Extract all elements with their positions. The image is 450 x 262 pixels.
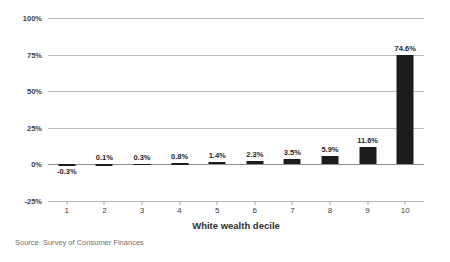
bar-slot: 0.3% (123, 18, 161, 201)
x-axis-tick-label: 3 (140, 206, 144, 215)
x-axis-tick-mark (179, 201, 180, 205)
bar-slot: 0.1% (86, 18, 124, 201)
y-axis-tick-label: 75% (0, 50, 42, 59)
bar[interactable] (209, 162, 226, 164)
x-axis-tick-mark (367, 201, 368, 205)
x-axis-tick-mark (330, 201, 331, 205)
bar-slot: 2.3% (236, 18, 274, 201)
x-axis-title: White wealth decile (48, 220, 424, 231)
bar-value-label: 11.6% (357, 136, 378, 145)
bar-value-label: 0.8% (171, 152, 188, 161)
bar-value-label: 0.1% (96, 153, 113, 162)
source-note: Source: Survey of Consumer Finances (15, 238, 144, 247)
x-axis-tick-mark (254, 201, 255, 205)
y-axis-labels: 100%75%50%25%0%-25% (0, 18, 42, 201)
x-axis-tick-mark (405, 201, 406, 205)
bar[interactable] (321, 156, 338, 165)
bar-value-label: -0.3% (57, 167, 77, 176)
bar[interactable] (397, 55, 414, 164)
bar[interactable] (96, 164, 113, 166)
y-axis-tick-label: 50% (0, 87, 42, 96)
bars-layer: -0.3%0.1%0.3%0.8%1.4%2.3%3.5%5.9%11.6%74… (48, 18, 424, 201)
bar-slot: 3.5% (274, 18, 312, 201)
bar-value-label: 3.5% (284, 148, 301, 157)
x-axis-tick-label: 2 (102, 206, 106, 215)
y-axis-tick-label: 25% (0, 123, 42, 132)
bar-slot: 74.6% (386, 18, 424, 201)
y-axis-tick-label: 100% (0, 14, 42, 23)
x-axis-tick-mark (217, 201, 218, 205)
bar-slot: 11.6% (349, 18, 387, 201)
bar[interactable] (171, 163, 188, 165)
x-axis-tick-mark (292, 201, 293, 205)
x-axis-tick-label: 4 (177, 206, 181, 215)
bar-slot: -0.3% (48, 18, 86, 201)
x-axis-tick-mark (142, 201, 143, 205)
bar[interactable] (359, 147, 376, 164)
bar-value-label: 0.3% (133, 153, 150, 162)
x-axis-tick-label: 5 (215, 206, 219, 215)
x-axis-tick-mark (66, 201, 67, 205)
x-axis-tick-label: 7 (290, 206, 294, 215)
bar-value-label: 2.3% (246, 150, 263, 159)
bar-value-label: 1.4% (209, 151, 226, 160)
bar-slot: 5.9% (311, 18, 349, 201)
y-axis-tick-label: 0% (0, 160, 42, 169)
bar[interactable] (133, 164, 150, 166)
bar-value-label: 5.9% (321, 145, 338, 154)
bar-slot: 1.4% (198, 18, 236, 201)
bar[interactable] (58, 164, 75, 166)
y-axis-tick-label: -25% (0, 197, 42, 206)
x-axis-tick-label: 8 (328, 206, 332, 215)
bar[interactable] (246, 161, 263, 164)
bar-slot: 0.8% (161, 18, 199, 201)
bar[interactable] (284, 159, 301, 164)
bar-chart: 100%75%50%25%0%-25% -0.3%0.1%0.3%0.8%1.4… (0, 0, 450, 262)
x-axis-tick-label: 9 (365, 206, 369, 215)
x-axis-tick-label: 1 (65, 206, 69, 215)
x-axis-tick-label: 6 (253, 206, 257, 215)
x-axis-tick-label: 10 (401, 206, 410, 215)
x-axis-tick-mark (104, 201, 105, 205)
bar-value-label: 74.6% (395, 44, 416, 53)
